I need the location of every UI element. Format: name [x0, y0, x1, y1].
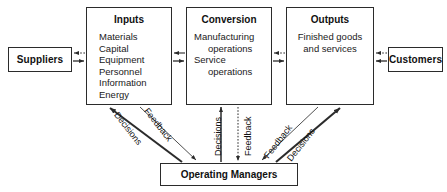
- operations-system-diagram: Suppliers Inputs Materials Capital Equip…: [0, 0, 447, 192]
- edge-label-decisions-middle: Decisions: [213, 117, 223, 156]
- node-outputs[interactable]: Outputs Finished goods and services: [286, 7, 374, 105]
- edge-label-feedback-middle: Feedback: [243, 116, 253, 156]
- inputs-title: Inputs: [87, 14, 171, 25]
- inputs-item: Equipment: [99, 54, 171, 66]
- conversion-line: Service: [194, 54, 271, 66]
- edge-label-decisions-left: Decisions: [112, 110, 144, 147]
- inputs-item: Materials: [99, 31, 171, 43]
- suppliers-label: Suppliers: [17, 54, 63, 65]
- conversion-line: operations: [194, 66, 271, 78]
- outputs-line: Finished goods: [287, 31, 373, 43]
- outputs-title: Outputs: [287, 14, 373, 25]
- inputs-item-list: Materials Capital Equipment Personnel In…: [99, 31, 171, 101]
- outputs-line: and services: [287, 43, 373, 55]
- node-customers[interactable]: Customers: [388, 47, 443, 72]
- inputs-item: Capital: [99, 43, 171, 55]
- edge-label-feedback-left: Feedback: [142, 106, 174, 143]
- conversion-text-block: Manufacturing operations Service operati…: [194, 31, 271, 77]
- node-conversion[interactable]: Conversion Manufacturing operations Serv…: [186, 7, 272, 105]
- node-suppliers[interactable]: Suppliers: [8, 47, 72, 72]
- conversion-title: Conversion: [187, 14, 271, 25]
- customers-label: Customers: [389, 54, 442, 65]
- inputs-item: Information: [99, 77, 171, 89]
- node-operating-managers[interactable]: Operating Managers: [160, 163, 298, 186]
- operating-managers-label: Operating Managers: [181, 169, 278, 180]
- conversion-line: operations: [194, 43, 271, 55]
- inputs-item: Energy: [99, 89, 171, 101]
- inputs-item: Personnel: [99, 66, 171, 78]
- conversion-line: Manufacturing: [194, 31, 271, 43]
- outputs-text-block: Finished goods and services: [287, 31, 373, 54]
- node-inputs[interactable]: Inputs Materials Capital Equipment Perso…: [86, 7, 172, 105]
